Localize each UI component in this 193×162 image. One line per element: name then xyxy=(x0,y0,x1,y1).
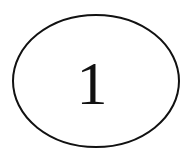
node-group-1[interactable]: 1 xyxy=(13,15,179,147)
diagram-canvas: 1 xyxy=(0,0,193,162)
node-label-1: 1 xyxy=(77,49,108,117)
diagram-svg-root: 1 xyxy=(0,0,193,162)
